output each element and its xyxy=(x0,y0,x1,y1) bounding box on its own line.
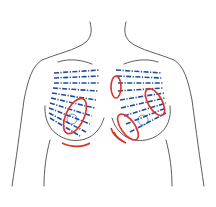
left-inframammary-arc xyxy=(62,143,90,146)
right-breast-lines xyxy=(116,70,166,132)
right-medial-vertical-ellipse xyxy=(111,76,121,98)
body-outline xyxy=(12,22,204,186)
torso-diagram xyxy=(0,0,216,207)
left-breast-lines xyxy=(49,70,100,136)
